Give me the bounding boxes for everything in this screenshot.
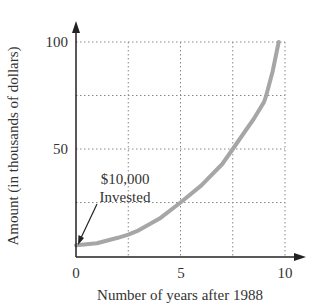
x-axis-label: Number of years after 1988 bbox=[97, 287, 263, 303]
y-axis-label: Amount (in thousands of dollars) bbox=[5, 46, 22, 245]
x-axis-arrow-icon bbox=[294, 253, 306, 261]
x-tick-0: 0 bbox=[72, 265, 80, 281]
y-tick-100: 100 bbox=[46, 34, 69, 50]
investment-chart: 0 5 10 100 50 Number of years after 1988… bbox=[0, 0, 318, 305]
annotation-amount: $10,000 bbox=[101, 171, 150, 187]
y-tick-50: 50 bbox=[53, 141, 68, 157]
annotation-arrow bbox=[80, 204, 97, 240]
annotation-invested: Invested bbox=[100, 189, 151, 205]
y-axis-arrow-icon bbox=[72, 21, 80, 33]
growth-curve bbox=[76, 42, 279, 245]
gridlines bbox=[76, 42, 285, 256]
x-tick-5: 5 bbox=[177, 265, 185, 281]
x-tick-10: 10 bbox=[278, 265, 293, 281]
